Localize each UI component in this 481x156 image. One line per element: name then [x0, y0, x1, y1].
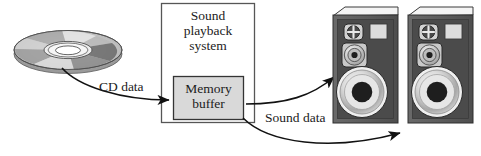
buffer-label-line2: buffer	[174, 96, 243, 111]
loudspeaker-right	[408, 7, 473, 123]
sound-data-label: Sound data	[265, 110, 325, 125]
cd-audio-playback-signal-flow-diagram: Sound playback system Memory buffer CD d…	[0, 0, 481, 156]
sound-playback-system-label: Sound playback system	[166, 8, 250, 53]
system-label-line2: playback	[166, 23, 250, 38]
buffer-label-line1: Memory	[174, 81, 243, 96]
cd-data-label: CD data	[99, 79, 144, 94]
memory-buffer-label: Memory buffer	[174, 81, 243, 111]
arrow-sound-data-to-left-speaker	[246, 77, 334, 104]
speaker-port-left	[370, 24, 387, 39]
system-label-line3: system	[166, 38, 250, 53]
loudspeaker-left	[333, 7, 398, 123]
system-label-line1: Sound	[166, 8, 250, 23]
speaker-port-right	[445, 24, 462, 39]
compact-disc-icon	[14, 31, 122, 74]
